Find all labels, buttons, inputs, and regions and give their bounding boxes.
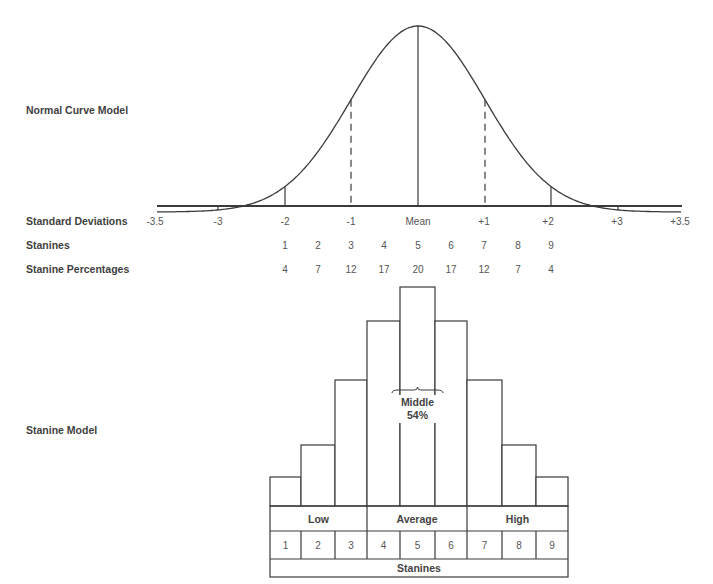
sd-value: +2 (542, 216, 554, 227)
middle-percent: 54% (407, 409, 429, 421)
stanine-value: 5 (415, 240, 421, 251)
stanine-value: 9 (548, 240, 554, 251)
middle-label: Middle (401, 396, 434, 408)
percentage-value: 7 (515, 264, 521, 275)
stanine-bar-7 (467, 380, 502, 506)
stanine-diagram: Normal Curve Model Standard Deviations S… (0, 0, 713, 584)
stanine-value: 7 (481, 240, 487, 251)
band-low: Low (308, 513, 330, 525)
stanine-bar-2 (301, 445, 335, 506)
percentage-value: 17 (445, 264, 457, 275)
stanine-percentage-values: 47121720171274 (282, 264, 554, 275)
sd-value: -3 (214, 216, 223, 227)
stanine-bar-1 (270, 477, 301, 506)
stanine-value: 6 (448, 240, 454, 251)
sd-value: +1 (478, 216, 490, 227)
stanine-model-label: Stanine Model (26, 424, 97, 436)
stanine-cell: 8 (516, 540, 522, 551)
stanine-bar-3 (335, 380, 367, 506)
percentage-value: 12 (478, 264, 490, 275)
percentage-value: 12 (345, 264, 357, 275)
percentage-value: 7 (315, 264, 321, 275)
standard-deviations-label: Standard Deviations (26, 215, 128, 227)
percentage-value: 20 (412, 264, 424, 275)
stanine-bar-8 (502, 445, 536, 506)
stanine-cell: 3 (348, 540, 354, 551)
stanine-cell: 7 (482, 540, 488, 551)
bell-curve-line (157, 26, 681, 212)
normal-curve (157, 26, 682, 212)
stanine-value: 1 (282, 240, 288, 251)
stanine-cell: 5 (415, 540, 421, 551)
percentage-value: 4 (282, 264, 288, 275)
stanine-value: 2 (315, 240, 321, 251)
percentage-value: 4 (548, 264, 554, 275)
stanine-bar-6 (435, 321, 467, 506)
stanine-cell: 9 (549, 540, 555, 551)
stanine-percentages-label: Stanine Percentages (26, 263, 129, 275)
sd-value: +3 (611, 216, 623, 227)
band-high: High (506, 513, 529, 525)
stanine-table: LowAverageHigh123456789Stanines (270, 506, 568, 577)
stanine-values: 123456789 (282, 240, 554, 251)
sd-value: -1 (347, 216, 356, 227)
stanines-label: Stanines (26, 239, 70, 251)
stanine-cell: 6 (448, 540, 454, 551)
sd-divider-lines (218, 26, 618, 210)
sd-value: +3.5 (670, 216, 690, 227)
normal-curve-model-label: Normal Curve Model (26, 104, 128, 116)
stanine-cell: 1 (283, 540, 289, 551)
stanine-value: 8 (515, 240, 521, 251)
stanine-value: 4 (381, 240, 387, 251)
stanine-bar-4 (367, 321, 400, 506)
percentage-value: 17 (378, 264, 390, 275)
stanines-footer: Stanines (397, 562, 441, 574)
sd-value: -3.5 (146, 216, 164, 227)
band-average: Average (396, 513, 437, 525)
stanine-cell: 4 (381, 540, 387, 551)
sd-value: -2 (281, 216, 290, 227)
stanine-value: 3 (348, 240, 354, 251)
sd-value: Mean (405, 216, 430, 227)
standard-deviation-values: -3.5-3-2-1Mean+1+2+3+3.5 (146, 216, 690, 227)
stanine-cell: 2 (315, 540, 321, 551)
stanine-bar-9 (536, 477, 568, 506)
